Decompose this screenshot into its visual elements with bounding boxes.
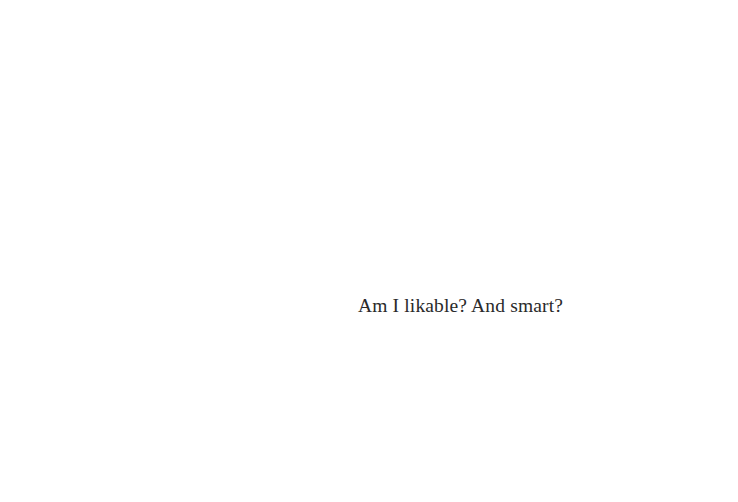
- slide-canvas: Am I likable? And smart?: [0, 0, 738, 502]
- caption-text: Am I likable? And smart?: [358, 293, 563, 319]
